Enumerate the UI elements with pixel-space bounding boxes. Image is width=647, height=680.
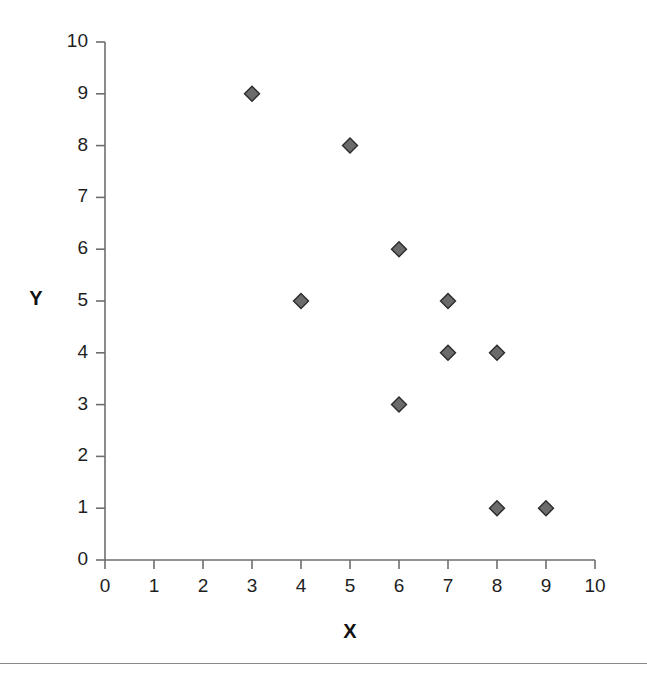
footer-divider bbox=[0, 663, 647, 664]
data-point bbox=[490, 501, 505, 516]
x-tick-label: 0 bbox=[100, 575, 111, 596]
data-point bbox=[245, 86, 260, 101]
x-tick-label: 2 bbox=[198, 575, 209, 596]
data-point bbox=[441, 294, 456, 309]
y-axis-title: Y bbox=[29, 287, 43, 309]
data-point bbox=[294, 294, 309, 309]
x-tick-label: 1 bbox=[149, 575, 160, 596]
x-axis-tick-labels: 012345678910 bbox=[100, 575, 606, 596]
x-tick-label: 10 bbox=[584, 575, 605, 596]
x-tick-label: 8 bbox=[492, 575, 503, 596]
scatter-chart: 012345678910 012345678910 Y X bbox=[0, 0, 647, 680]
y-tick-label: 5 bbox=[77, 289, 88, 310]
x-axis-ticks bbox=[105, 560, 595, 569]
data-point bbox=[490, 345, 505, 360]
y-tick-label: 1 bbox=[77, 496, 88, 517]
y-axis-ticks bbox=[96, 42, 105, 560]
x-tick-label: 5 bbox=[345, 575, 356, 596]
y-tick-label: 0 bbox=[77, 548, 88, 569]
data-point bbox=[441, 345, 456, 360]
data-point bbox=[392, 397, 407, 412]
x-tick-label: 3 bbox=[247, 575, 258, 596]
y-tick-label: 3 bbox=[77, 393, 88, 414]
data-point bbox=[392, 242, 407, 257]
x-tick-label: 7 bbox=[443, 575, 454, 596]
y-tick-label: 10 bbox=[67, 30, 88, 51]
y-tick-label: 6 bbox=[77, 237, 88, 258]
y-tick-label: 8 bbox=[77, 134, 88, 155]
x-tick-label: 9 bbox=[541, 575, 552, 596]
y-tick-label: 7 bbox=[77, 185, 88, 206]
data-point-group bbox=[245, 86, 554, 515]
y-axis-tick-labels: 012345678910 bbox=[67, 30, 89, 569]
y-tick-label: 9 bbox=[77, 82, 88, 103]
data-point bbox=[343, 138, 358, 153]
chart-canvas: 012345678910 012345678910 Y X bbox=[0, 0, 647, 680]
y-tick-label: 2 bbox=[77, 444, 88, 465]
y-tick-label: 4 bbox=[77, 341, 88, 362]
data-point bbox=[539, 501, 554, 516]
x-tick-label: 6 bbox=[394, 575, 405, 596]
x-axis-title: X bbox=[343, 620, 357, 642]
x-tick-label: 4 bbox=[296, 575, 307, 596]
